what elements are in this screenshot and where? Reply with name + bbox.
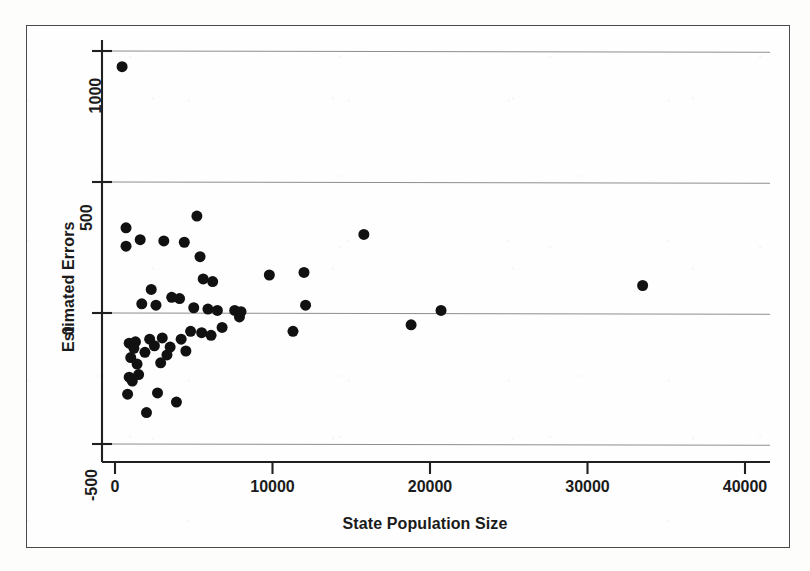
figure-frame [26, 25, 790, 548]
